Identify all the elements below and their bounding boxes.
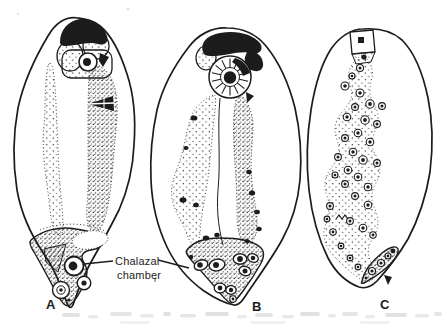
seed-c-micropylar-structure xyxy=(350,30,375,64)
annotation-line1: Chalazal xyxy=(115,255,159,267)
seed-a-embryo-nucleus xyxy=(83,58,91,66)
seed-section-b: B xyxy=(151,28,301,314)
seed-section-a: A xyxy=(14,18,135,312)
panel-label-b: B xyxy=(252,299,261,314)
panel-label-c: C xyxy=(380,297,390,312)
annotation-subscript: r xyxy=(154,275,157,284)
panel-label-a: A xyxy=(46,297,56,312)
seed-section-c: C xyxy=(307,29,432,312)
seed-longisection-figure: A xyxy=(0,0,445,329)
seed-a-chalazal-chamber-cell xyxy=(65,257,84,276)
seed-b-embryo-rosette xyxy=(209,56,251,98)
seed-a-endosperm-lobe-left xyxy=(57,41,83,71)
figure-canvas: A xyxy=(0,0,445,329)
